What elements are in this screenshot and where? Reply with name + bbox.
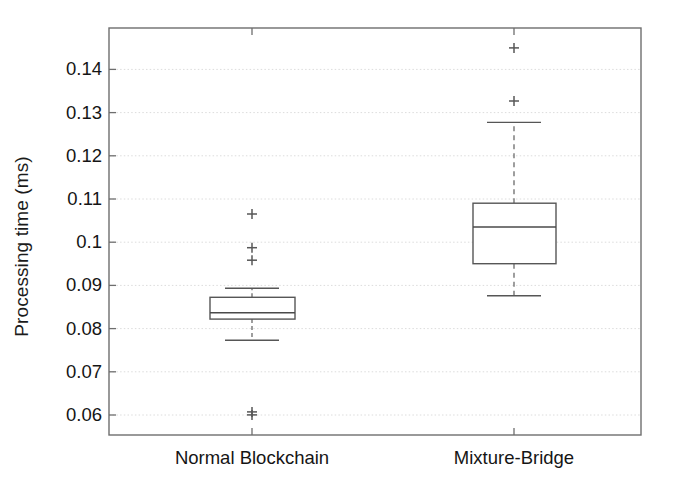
outlier-marker — [509, 96, 519, 106]
box-plot-normal-blockchain[interactable] — [210, 209, 295, 420]
grid-lines — [109, 69, 641, 415]
outlier-marker — [247, 243, 257, 253]
box-iqr — [473, 203, 556, 264]
outlier-markers — [509, 43, 519, 106]
outlier-marker — [247, 209, 257, 219]
outlier-marker — [247, 255, 257, 265]
axes-frame — [109, 28, 641, 435]
box-iqr — [210, 297, 295, 319]
y-axis-ticks — [109, 69, 116, 415]
box-plot-mixture-bridge[interactable] — [473, 43, 556, 296]
plot-canvas — [0, 0, 675, 493]
outlier-marker — [509, 43, 519, 53]
box-plot-figure: Processing time (ms) 0.06 0.07 0.08 0.09… — [0, 0, 675, 493]
